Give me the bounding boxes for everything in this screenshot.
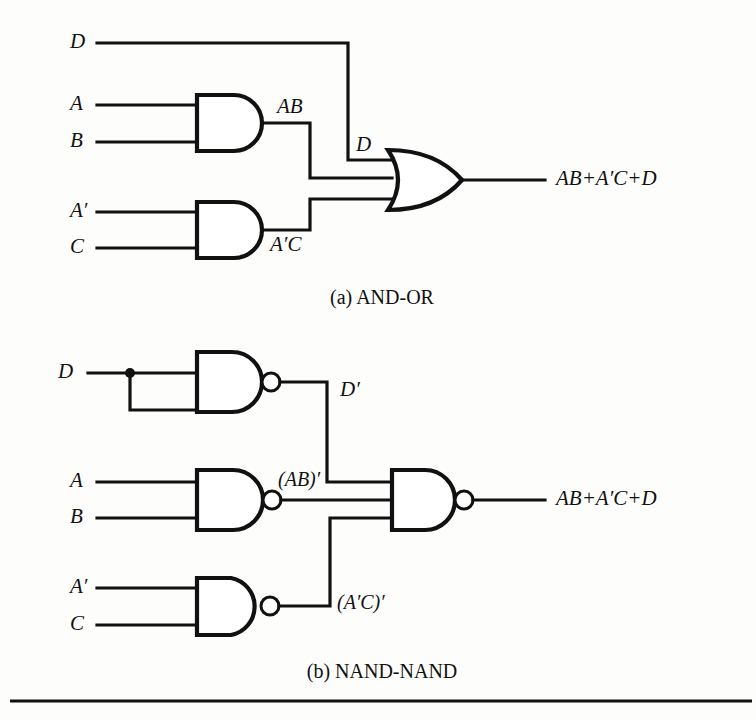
label-ab-prime: (AB)′ [278,468,321,491]
wire-apc-to-or [262,199,392,230]
nand-bubble-apc [261,597,279,615]
nand-gate-output [392,470,455,530]
label-output-b: AB+A′C+D [554,486,657,510]
label-a-prime-c: A′C [268,232,302,256]
wire-ab-to-or [262,123,392,178]
nand-gate-a-prime-c [197,578,255,635]
label-d-prime: D′ [339,377,360,401]
and-gate-a-prime-c [197,202,262,258]
label-input-a-prime-b: A′ [68,574,88,598]
panel-a-and-or: D A B A′ C AB A′C D AB+A′C+D (a) AND-OR [68,29,657,309]
panel-b-nand-nand: D A B A′ C D′ (AB)′ (A′C)′ AB+A′C+D (b) … [57,352,657,683]
label-input-c-b: C [70,611,85,635]
label-input-d-a: D [69,29,85,53]
label-input-b-a: B [70,128,83,152]
nand-gate-d [197,352,262,412]
caption-panel-a: (a) AND-OR [330,286,435,309]
label-input-b-b: B [70,504,83,528]
label-d-into-or: D [355,132,371,156]
logic-circuit-figure: D A B A′ C AB A′C D AB+A′C+D (a) AND-OR [0,0,756,720]
label-input-d-b: D [57,359,73,383]
label-input-a-b: A [68,468,83,492]
or-gate-output [388,150,462,210]
nand-bubble-ab [263,491,281,509]
label-input-a-a: A [68,91,83,115]
nand-gate-ab [197,470,263,530]
label-output-a: AB+A′C+D [554,166,657,190]
and-gate-ab [197,95,262,151]
label-input-a-prime-a: A′ [68,198,88,222]
caption-panel-b: (b) NAND-NAND [307,660,458,683]
nand-bubble-output [455,491,473,509]
wire-d-branch [130,373,197,410]
label-apc-prime: (A′C)′ [337,591,385,614]
figure-page: D A B A′ C AB A′C D AB+A′C+D (a) AND-OR [0,0,756,720]
nand-bubble-d [262,373,280,391]
junction-dot-d [125,368,135,378]
label-ab: AB [275,94,303,118]
label-input-c-a: C [70,234,85,258]
